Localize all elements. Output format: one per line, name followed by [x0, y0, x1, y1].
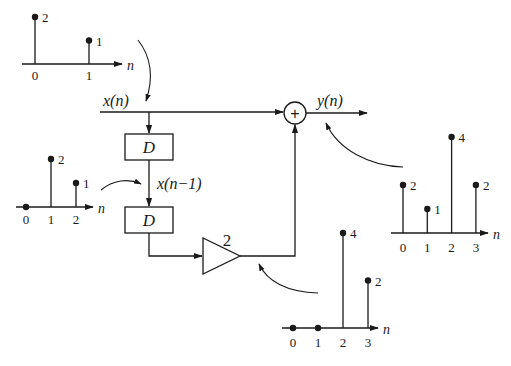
- tick-label: 1: [48, 212, 55, 227]
- tick-label: 1: [315, 335, 322, 350]
- value-label: 2: [483, 178, 490, 193]
- arrow-input-plot: [138, 40, 150, 101]
- value-label: 4: [459, 130, 466, 145]
- tick-label: 0: [32, 68, 39, 83]
- arrow-scaled-plot: [259, 264, 318, 293]
- delayed-label: x(n−1): [156, 175, 202, 193]
- axis-label-n: n: [127, 58, 134, 73]
- stem-plot-delayed: n02112: [16, 152, 105, 227]
- stem-point: [86, 37, 92, 43]
- value-label: 4: [350, 226, 357, 241]
- arrow-output-plot: [326, 123, 403, 167]
- stem-point: [473, 182, 479, 188]
- pointer-arrows: [101, 40, 403, 293]
- tick-label: 3: [365, 335, 372, 350]
- value-label: 1: [96, 34, 103, 49]
- value-label: 2: [42, 10, 49, 25]
- stem-point: [448, 134, 454, 140]
- tick-label: 3: [473, 240, 480, 255]
- gain-to-adder: [240, 125, 295, 256]
- tick-label: 2: [448, 240, 455, 255]
- value-label: 2: [375, 274, 382, 289]
- stem-point: [315, 325, 321, 331]
- stem-point: [73, 180, 79, 186]
- tick-label: 1: [424, 240, 431, 255]
- stem-point: [290, 325, 296, 331]
- arrow-delayed-plot: [101, 181, 141, 190]
- tick-label: 0: [400, 240, 407, 255]
- tick-label: 2: [340, 335, 347, 350]
- block-diagram: D D 2 + x(n) x(n−1) y(n) n2011 n02112 n0…: [0, 0, 511, 366]
- output-label: y(n): [315, 92, 343, 110]
- stem-point: [32, 14, 38, 20]
- stem-point: [424, 206, 430, 212]
- stem-point: [400, 182, 406, 188]
- delay-label-2: D: [142, 211, 156, 230]
- stem-plot-output: n20114223: [391, 130, 500, 255]
- gain-amplifier: [203, 238, 240, 274]
- value-label: 1: [434, 202, 441, 217]
- tick-label: 1: [86, 68, 93, 83]
- value-label: 2: [410, 178, 417, 193]
- stem-point: [340, 230, 346, 236]
- tick-label: 0: [290, 335, 297, 350]
- axis-label-n: n: [383, 322, 390, 337]
- tick-label: 0: [23, 212, 30, 227]
- adder-plus: +: [290, 105, 299, 122]
- stem-point: [23, 204, 29, 210]
- delay-label-1: D: [142, 138, 156, 157]
- value-label: 2: [58, 152, 65, 167]
- gain-label: 2: [223, 231, 232, 250]
- axis-label-n: n: [493, 227, 500, 242]
- value-label: 1: [83, 176, 90, 191]
- stem-point: [365, 277, 371, 283]
- stem-point: [48, 156, 54, 162]
- stem-plot-scaled: n014223: [282, 226, 390, 350]
- stem-plot-input: n2011: [22, 10, 134, 83]
- delay2-to-gain: [149, 233, 202, 256]
- axis-label-n: n: [98, 201, 105, 216]
- input-label: x(n): [102, 92, 129, 110]
- tick-label: 2: [73, 212, 80, 227]
